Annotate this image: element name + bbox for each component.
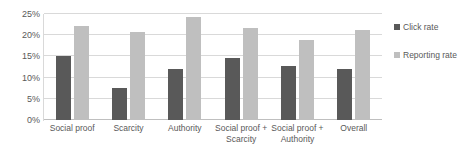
bar[interactable]	[299, 40, 314, 120]
bar[interactable]	[112, 88, 127, 120]
bar-group	[44, 14, 100, 120]
x-axis-tick-label: Social proof + Scarcity	[213, 123, 269, 144]
x-axis-tick-labels: Social proofScarcityAuthoritySocial proo…	[44, 123, 382, 144]
legend-swatch-icon	[394, 52, 400, 58]
legend-label: Reporting rate	[403, 50, 457, 61]
bar[interactable]	[56, 56, 71, 120]
x-axis-tick-label: Social proof	[44, 123, 100, 144]
bar-group	[326, 14, 382, 120]
y-axis-tick-labels: 0%5%10%15%20%25%	[0, 14, 40, 120]
bar[interactable]	[337, 69, 352, 120]
bar[interactable]	[243, 28, 258, 120]
y-axis-tick-label: 20%	[0, 31, 40, 40]
bar-groups	[44, 14, 382, 120]
y-axis-tick-label: 10%	[0, 73, 40, 82]
legend-item[interactable]: Reporting rate	[394, 50, 458, 61]
x-axis-tick-label: Social proof + Authority	[269, 123, 325, 144]
bar-group	[157, 14, 213, 120]
bar[interactable]	[355, 30, 370, 120]
y-axis-tick-label: 5%	[0, 94, 40, 103]
legend-label: Click rate	[403, 22, 438, 33]
legend-item[interactable]: Click rate	[394, 22, 458, 33]
bar-chart: 0%5%10%15%20%25% Social proofScarcityAut…	[0, 0, 460, 158]
bar-group	[100, 14, 156, 120]
bar[interactable]	[74, 26, 89, 120]
bar[interactable]	[281, 66, 296, 120]
bar-group	[213, 14, 269, 120]
bar[interactable]	[168, 69, 183, 120]
legend-swatch-icon	[394, 24, 400, 30]
y-axis-tick-label: 0%	[0, 116, 40, 125]
x-axis-tick-label: Scarcity	[100, 123, 156, 144]
bar-group	[269, 14, 325, 120]
y-axis-tick-label: 25%	[0, 10, 40, 19]
bar[interactable]	[130, 32, 145, 120]
bar[interactable]	[225, 58, 240, 120]
bar[interactable]	[186, 17, 201, 120]
x-axis-tick-label: Authority	[157, 123, 213, 144]
y-axis-tick-label: 15%	[0, 52, 40, 61]
chart-legend: Click rateReporting rate	[394, 22, 458, 77]
x-axis-tick-label: Overall	[326, 123, 382, 144]
